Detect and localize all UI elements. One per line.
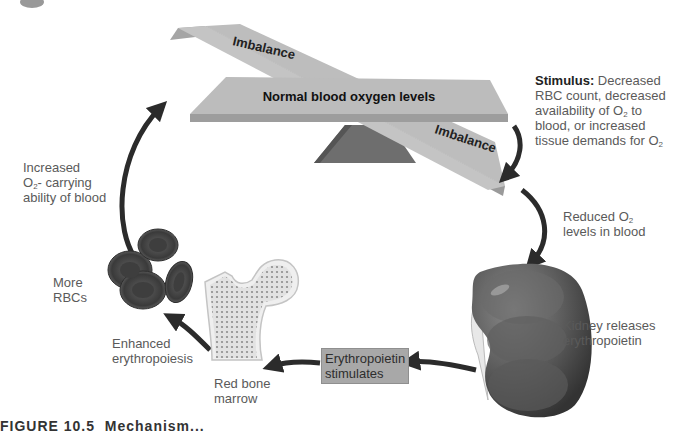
- corner-mark: [20, 0, 44, 8]
- increased-o2-carrying-label: Increased O2- carrying ability of blood: [23, 160, 106, 205]
- reduced-o2-label: Reduced O2 levels in blood: [563, 209, 645, 239]
- erythropoietin-box: Erythropoietin stimulates: [321, 348, 409, 384]
- arrow-kidney-to-epo: [410, 361, 476, 370]
- figure-caption: FIGURE 10.5 Mechanism...: [0, 418, 205, 433]
- enhanced-erythropoiesis-label: Enhanced erythropoiesis: [112, 336, 193, 366]
- kidney-label: Kidney releases erythropoietin: [563, 318, 656, 348]
- bone-marrow-icon: [205, 260, 298, 360]
- arrow-stimulus: [506, 126, 520, 176]
- main-beam-label: Normal blood oxygen levels: [263, 89, 436, 104]
- red-bone-marrow-label: Red bone marrow: [214, 376, 270, 406]
- more-rbcs-label: More RBCs: [53, 275, 87, 305]
- rbc-cluster-icon: [108, 229, 197, 309]
- arrow-epo-to-marrow: [272, 362, 320, 366]
- stimulus-label: Stimulus: Decreased RBC count, decreased…: [535, 73, 690, 148]
- arrow-reduced-o2: [522, 190, 545, 262]
